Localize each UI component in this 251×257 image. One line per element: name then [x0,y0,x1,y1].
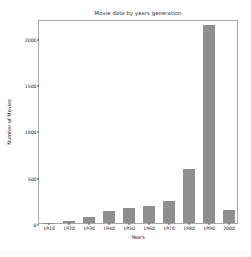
bar [143,206,155,223]
x-axis-tick-mark [149,223,150,225]
plot-frame: 0500100015002000191019201930194019501960… [38,20,238,224]
y-axis-tick-mark [37,132,39,133]
x-axis-tick-mark [109,223,110,225]
x-axis-tick-label: 1930 [83,226,95,231]
x-axis-tick-mark [129,223,130,225]
y-axis-label-container: Number of Movies [0,20,26,224]
bar [163,201,175,223]
x-axis-tick-label: 1960 [143,226,155,231]
y-axis-tick-mark [37,39,39,40]
y-axis-tick-label: 1500 [25,83,37,88]
bar [223,210,235,223]
x-axis-tick-label: 1980 [183,226,195,231]
figure-canvas: Movie data by years generation Number of… [0,0,251,257]
y-axis-tick-label: 2000 [25,37,37,42]
x-axis-tick-label: 2000 [223,226,235,231]
x-axis-tick-mark [229,223,230,225]
x-axis-tick-label: 1990 [203,226,215,231]
bar [103,211,115,223]
x-axis-tick-mark [49,223,50,225]
x-axis-tick-mark [189,223,190,225]
x-axis-tick-mark [169,223,170,225]
bar [203,25,215,223]
chart-title: Movie data by years generation [38,10,238,16]
y-axis-tick-label: 1000 [25,130,37,135]
plot-area: 0500100015002000191019201930194019501960… [39,21,237,223]
x-axis-tick-mark [209,223,210,225]
y-axis-tick-label: 500 [28,176,37,181]
bar [123,208,135,223]
x-axis-tick-label: 1910 [43,226,55,231]
x-axis-tick-mark [69,223,70,225]
x-axis-label: Years [38,234,238,240]
x-axis-tick-label: 1970 [163,226,175,231]
y-axis-tick-mark [37,85,39,86]
x-axis-tick-label: 1940 [103,226,115,231]
y-axis-tick-mark [37,225,39,226]
x-axis-tick-mark [89,223,90,225]
x-axis-tick-label: 1950 [123,226,135,231]
bar [183,169,195,223]
y-axis-label: Number of Movies [6,99,12,145]
x-axis-tick-label: 1920 [63,226,75,231]
y-axis-tick-mark [37,178,39,179]
